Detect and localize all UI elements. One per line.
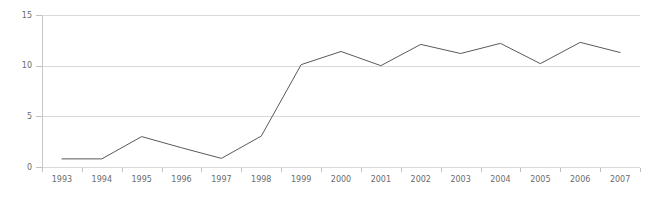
x-tick-label-1994: 1994	[92, 175, 112, 184]
y-tick-label-0: 0	[27, 163, 32, 172]
x-tick-label-2007: 2007	[610, 175, 630, 184]
x-tick-label-1998: 1998	[251, 175, 271, 184]
x-tick-label-2003: 2003	[450, 175, 470, 184]
chart-canvas: 051015 199319941995199619971998199920002…	[0, 0, 653, 197]
x-tick-label-2006: 2006	[570, 175, 590, 184]
y-tick-label-10: 10	[22, 61, 32, 70]
x-tick-label-2002: 2002	[411, 175, 431, 184]
y-tick-label-5: 5	[27, 112, 32, 121]
x-tick-label-1993: 1993	[52, 175, 72, 184]
line-chart: 051015 199319941995199619971998199920002…	[0, 0, 653, 197]
x-tick-label-2004: 2004	[490, 175, 510, 184]
x-tick-label-2001: 2001	[371, 175, 391, 184]
x-tick-label-1997: 1997	[211, 175, 231, 184]
x-tick-label-2005: 2005	[530, 175, 550, 184]
x-tick-label-1999: 1999	[291, 175, 311, 184]
x-tick-label-1996: 1996	[171, 175, 191, 184]
x-tick-label-2000: 2000	[331, 175, 351, 184]
x-tick-label-1995: 1995	[131, 175, 151, 184]
x-axis-tick-labels: 1993199419951996199719981999200020012002…	[52, 175, 630, 184]
y-tick-label-15: 15	[22, 11, 32, 20]
